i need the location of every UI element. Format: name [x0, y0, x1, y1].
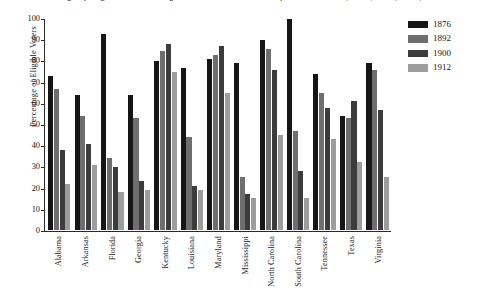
bar [357, 162, 362, 230]
bar [245, 194, 250, 230]
legend-label: 1900 [433, 49, 451, 58]
bar [251, 198, 256, 230]
bar [293, 131, 298, 230]
bar [272, 70, 277, 230]
x-axis-tick: Alabama [45, 234, 72, 306]
x-axis-tick: Maryland [205, 234, 232, 306]
bar [139, 181, 144, 230]
bar [101, 34, 106, 230]
bar [54, 89, 59, 230]
bar [287, 19, 292, 230]
bar-group [126, 19, 153, 230]
bar [346, 118, 351, 230]
y-axis-tick [41, 146, 45, 147]
x-axis-tick-labels: AlabamaArkansasFloridaGeorgiaKentuckyLou… [45, 234, 391, 306]
bar [113, 167, 118, 230]
x-axis-tick-label: Tennessee [320, 236, 329, 270]
bar [240, 177, 245, 230]
bar [219, 46, 224, 230]
bar-group [205, 19, 232, 230]
bar [278, 135, 283, 230]
y-axis-tick [41, 189, 45, 190]
x-axis-tick-label: Mississippi [240, 236, 249, 274]
x-axis-tick-label: Maryland [213, 236, 222, 269]
bar-group [179, 19, 206, 230]
bar [160, 51, 165, 230]
bar [80, 116, 85, 230]
x-axis-tick-label: North Carolina [267, 236, 276, 287]
x-axis-tick-label: Louisiana [187, 236, 196, 269]
x-axis-tick: Arkansas [72, 234, 99, 306]
bar-group [99, 19, 126, 230]
x-axis-tick-label: Arkansas [80, 236, 89, 267]
legend-item: 1892 [408, 32, 474, 47]
bar [340, 116, 345, 230]
bar-group [311, 19, 338, 230]
legend-swatch [408, 35, 428, 43]
chart-figure: Percentage of Eligible Voters Voting in … [0, 0, 477, 306]
y-axis-tick [41, 40, 45, 41]
y-axis-tick-label: 80 [0, 57, 40, 65]
bar [266, 49, 271, 230]
x-axis-tick: Tennessee [311, 234, 338, 306]
x-axis-tick-label: Kentucky [160, 236, 169, 269]
bar [92, 165, 97, 230]
legend-label: 1912 [433, 63, 451, 72]
bar [107, 158, 112, 230]
legend-label: 1892 [433, 34, 451, 43]
y-axis-tick-label: 50 [0, 121, 40, 129]
legend-swatch [408, 21, 428, 29]
bar [166, 44, 171, 230]
bar [118, 192, 123, 230]
y-axis-tick-label: 100 [0, 15, 40, 23]
bar [331, 139, 336, 230]
y-axis-tick [41, 83, 45, 84]
bar-groups [46, 19, 391, 230]
chart-title: Percentage of Eligible Voters Voting in … [0, 0, 477, 1]
y-axis-tick-label: 0 [0, 227, 40, 235]
y-axis-tick [41, 210, 45, 211]
bar [172, 72, 177, 230]
bar [48, 76, 53, 230]
plot-area: 0102030405060708090100 [44, 19, 391, 232]
x-axis-tick: Louisiana [178, 234, 205, 306]
legend-item: 1900 [408, 46, 474, 61]
y-axis-tick-label: 20 [0, 184, 40, 192]
x-axis-tick-label: Alabama [54, 236, 63, 266]
legend-item: 1912 [408, 61, 474, 76]
bar-group [258, 19, 285, 230]
bar [378, 110, 383, 230]
bar [154, 61, 159, 230]
bar-group [338, 19, 365, 230]
legend-item: 1876 [408, 17, 474, 32]
legend-label: 1876 [433, 20, 451, 29]
y-axis-tick-label: 60 [0, 100, 40, 108]
bar [86, 144, 91, 231]
y-axis-tick-label: 30 [0, 163, 40, 171]
x-axis-tick-label: Virginia [373, 236, 382, 263]
bar [234, 63, 239, 230]
bar [313, 74, 318, 230]
bar-group [232, 19, 259, 230]
x-axis-tick: Georgia [125, 234, 152, 306]
bar [366, 63, 371, 230]
y-axis-tick [41, 125, 45, 126]
bar [181, 68, 186, 230]
bar-group [364, 19, 391, 230]
x-axis-tick: Mississippi [231, 234, 258, 306]
y-axis-tick [41, 167, 45, 168]
bar [198, 190, 203, 230]
y-axis-tick [41, 61, 45, 62]
bar-group [152, 19, 179, 230]
x-axis-tick-label: Georgia [134, 236, 143, 263]
bar [60, 150, 65, 230]
bar [304, 198, 309, 230]
x-axis-tick-label: Florida [107, 236, 116, 260]
bar [207, 59, 212, 230]
bar [186, 137, 191, 230]
y-axis-tick [41, 104, 45, 105]
x-axis-tick: Kentucky [151, 234, 178, 306]
x-axis-tick: Florida [98, 234, 125, 306]
bar [351, 101, 356, 230]
x-axis-tick: North Carolina [258, 234, 285, 306]
